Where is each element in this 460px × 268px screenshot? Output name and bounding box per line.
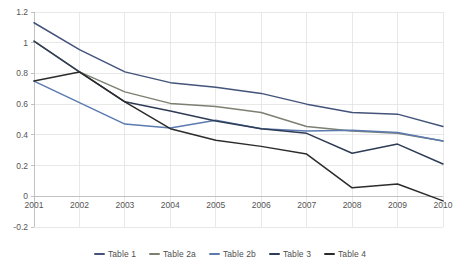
x-tick-label: 2008 xyxy=(343,200,362,210)
y-tick-label: 0.4 xyxy=(16,130,28,140)
legend-item[interactable]: Table 2b xyxy=(209,249,256,259)
x-tick-label: 2006 xyxy=(252,200,271,210)
legend-color-swatch-icon xyxy=(149,253,160,255)
series-line xyxy=(34,72,443,201)
x-tick-label: 2010 xyxy=(434,200,453,210)
y-tick-label: 0.8 xyxy=(16,68,28,78)
series-line xyxy=(34,41,443,141)
x-tick-label: 2007 xyxy=(297,200,316,210)
legend-label: Table 3 xyxy=(283,249,311,259)
y-tick-label: -0.2 xyxy=(13,222,28,232)
x-tick-label: 2003 xyxy=(115,200,134,210)
legend-label: Table 2a xyxy=(163,249,196,259)
y-tick-label: 1.2 xyxy=(16,7,28,17)
y-tick-label: 0.6 xyxy=(16,99,28,109)
legend-label: Table 2b xyxy=(223,249,256,259)
gridlines xyxy=(34,12,443,227)
x-tick-label: 2004 xyxy=(161,200,180,210)
legend-label: Table 1 xyxy=(108,249,136,259)
legend-label: Table 4 xyxy=(338,249,366,259)
legend-item[interactable]: Table 2a xyxy=(149,249,196,259)
series-line xyxy=(34,41,443,164)
chart-legend: Table 1Table 2aTable 2bTable 3Table 4 xyxy=(0,240,460,268)
axes xyxy=(31,12,443,227)
y-tick-label: 1 xyxy=(23,38,28,48)
x-tick-label: 2002 xyxy=(70,200,89,210)
legend-item[interactable]: Table 3 xyxy=(269,249,311,259)
chart-canvas: 1.210.80.60.40.20-0.2 200120022003200420… xyxy=(0,0,460,240)
series-lines xyxy=(34,23,443,201)
x-axis-tick-labels: 2001200220032004200520062007200820092010 xyxy=(25,200,453,210)
y-axis-tick-labels: 1.210.80.60.40.20-0.2 xyxy=(13,7,28,232)
legend-color-swatch-icon xyxy=(324,253,335,255)
x-tick-label: 2009 xyxy=(388,200,407,210)
legend-item[interactable]: Table 1 xyxy=(94,249,136,259)
y-tick-label: 0.2 xyxy=(16,161,28,171)
plot-area: 1.210.80.60.40.20-0.2 200120022003200420… xyxy=(0,0,460,240)
legend-color-swatch-icon xyxy=(269,253,280,255)
x-tick-label: 2001 xyxy=(25,200,44,210)
legend-color-swatch-icon xyxy=(209,253,220,255)
legend-color-swatch-icon xyxy=(94,253,105,255)
legend-item[interactable]: Table 4 xyxy=(324,249,366,259)
line-chart: 1.210.80.60.40.20-0.2 200120022003200420… xyxy=(0,0,460,268)
x-tick-label: 2005 xyxy=(206,200,225,210)
